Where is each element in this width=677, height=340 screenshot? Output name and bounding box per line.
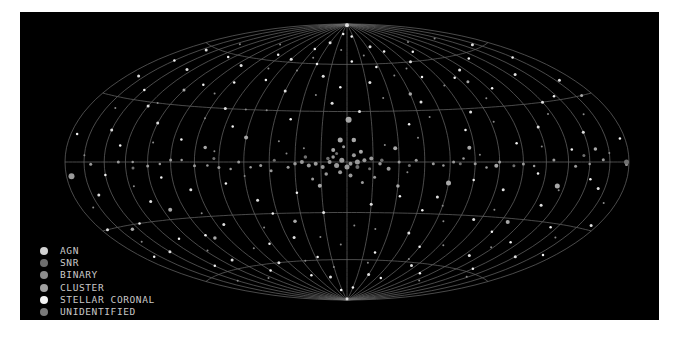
source-point-binary [89,163,92,166]
source-point-agn [436,195,439,198]
source-point-agn [345,23,349,27]
source-point-unidentified [296,70,298,72]
source-point-stellar-coronal [537,172,540,175]
source-point-binary [270,169,273,172]
source-point-cluster [338,137,343,142]
agn-dot-icon [40,247,48,255]
source-point-binary [314,162,318,166]
source-point-unidentified [237,280,239,282]
source-point-stellar-coronal [472,179,475,182]
source-point-binary [229,168,232,171]
source-point-agn [329,41,332,44]
source-point-binary [324,172,328,176]
source-point-binary [249,166,252,169]
source-point-binary [432,162,435,165]
source-point-unidentified [490,246,492,248]
source-point-agn [149,200,152,203]
source-point-unidentified [201,212,203,214]
source-point-stellar-coronal [491,87,494,90]
source-point-stellar-coronal [351,60,354,63]
legend-item-unidentified: UNIDENTIFIED [40,306,155,318]
source-point-agn [97,194,100,197]
source-point-binary [311,178,314,181]
source-point-agn [329,276,332,279]
source-point-unidentified [479,154,481,156]
legend-label: SNR [60,257,79,269]
source-point-unidentified [312,57,314,59]
source-point-cluster [393,146,397,150]
sky-map-panel: AGN SNR BINARY CLUSTER STELLAR CORONAL U… [20,12,659,320]
source-point-stellar-coronal [202,83,205,86]
source-point-agn [222,223,225,226]
source-point-unidentified [407,41,409,43]
source-point-unidentified [304,260,306,262]
source-point-binary [206,164,209,167]
source-point-stellar-coronal [472,267,475,270]
source-point-stellar-coronal [375,66,378,69]
source-point-stellar-coronal [619,137,622,140]
source-point-unidentified [554,237,556,239]
source-point-agn [156,122,159,125]
source-point-snr [335,152,338,155]
source-point-agn [472,218,475,221]
legend-label: AGN [60,245,79,257]
source-point-stellar-coronal [350,35,353,38]
source-point-stellar-coronal [119,144,122,147]
source-point-agn [106,228,109,231]
source-point-stellar-coronal [76,133,79,136]
source-point-cluster [346,117,352,123]
source-point-binary [342,145,345,148]
source-point-unidentified [92,206,94,208]
source-point-stellar-coronal [342,33,345,36]
source-point-cluster [409,92,413,96]
source-point-unidentified [603,202,605,204]
legend-item-agn: AGN [40,245,155,257]
source-point-unidentified [485,97,487,99]
source-point-stellar-coronal [383,50,386,53]
source-point-binary [452,161,455,164]
legend-item-cluster: CLUSTER [40,282,155,294]
source-point-stellar-coronal [204,234,207,237]
source-point-agn [471,43,474,46]
source-point-agn [370,203,373,206]
source-point-binary [69,173,75,179]
source-point-agn [290,58,293,61]
source-point-stellar-coronal [143,89,146,92]
source-point-stellar-coronal [289,118,292,121]
source-point-unidentified [333,266,335,268]
binary-dot-icon [40,271,48,279]
source-point-unidentified [315,94,317,96]
source-point-unidentified [363,55,365,57]
source-point-snr [132,167,135,170]
source-point-stellar-coronal [277,53,280,56]
source-point-stellar-coronal [374,251,377,254]
source-point-stellar-coronal [453,76,456,79]
source-point-stellar-coronal [265,79,268,82]
source-point-cluster [467,146,471,150]
snr-dot-icon [40,259,48,267]
source-point-unidentified [417,137,419,139]
source-point-agn [590,224,593,227]
source-point-unidentified [434,38,436,40]
source-point-snr [326,157,330,161]
source-point-cluster [396,184,400,188]
source-point-stellar-coronal [227,56,230,59]
source-point-unidentified [493,209,495,211]
source-point-cluster [131,227,135,231]
source-point-stellar-coronal [421,76,424,79]
source-point-snr [273,159,276,162]
source-point-binary [378,162,382,166]
source-point-binary [300,160,304,164]
source-point-stellar-coronal [233,81,236,84]
source-point-snr [582,154,585,157]
source-point-agn [514,255,517,258]
source-point-cluster [446,181,451,186]
source-point-stellar-coronal [515,142,518,145]
source-point-binary [602,158,605,161]
source-point-unidentified [608,152,610,154]
source-point-unidentified [442,220,444,222]
source-point-unidentified [442,205,444,207]
source-point-agn [468,254,471,257]
source-point-stellar-coronal [419,272,422,275]
source-point-unidentified [286,152,288,154]
